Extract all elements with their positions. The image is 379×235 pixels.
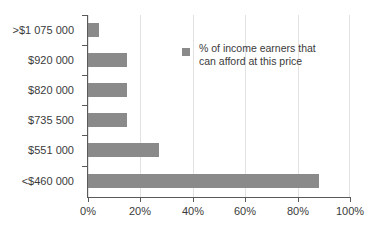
y-axis-label: $551 000 (0, 144, 80, 156)
bar-820000[interactable] (88, 83, 127, 97)
y-axis-label: $735 500 (0, 114, 80, 126)
x-axis-label: 60% (222, 205, 268, 218)
x-axis-label: 0% (65, 205, 111, 218)
bar-460000[interactable] (88, 174, 319, 188)
x-tick (350, 197, 351, 202)
gridline-100 (349, 15, 350, 197)
y-axis-label: $820 000 (0, 84, 80, 96)
gridline-0 (88, 15, 89, 197)
legend-label: % of income earners that can afford at t… (199, 42, 316, 68)
x-tick (298, 197, 299, 202)
x-tick (140, 197, 141, 202)
x-axis-label: 40% (170, 205, 216, 218)
x-axis-label: 80% (275, 205, 321, 218)
y-axis-line (87, 15, 88, 198)
legend: % of income earners that can afford at t… (182, 42, 316, 68)
x-tick (245, 197, 246, 202)
bar-735500[interactable] (88, 113, 127, 127)
x-axis-line (87, 197, 351, 198)
bar-920000[interactable] (88, 53, 127, 67)
legend-label-line1: % of income earners that (199, 42, 316, 55)
x-tick (88, 197, 89, 202)
y-axis-label: $920 000 (0, 54, 80, 66)
bar-1075000[interactable] (88, 23, 99, 37)
x-axis-label: 100% (327, 205, 373, 218)
bar-551000[interactable] (88, 143, 159, 157)
gridline-20 (140, 15, 141, 197)
bar-chart: >$1 075 000 $920 000 $820 000 $735 500 $… (0, 0, 379, 235)
legend-label-line2: can afford at this price (199, 55, 316, 68)
y-axis-labels: >$1 075 000 $920 000 $820 000 $735 500 $… (0, 15, 83, 197)
y-axis-label: <$460 000 (0, 175, 80, 187)
x-tick (193, 197, 194, 202)
legend-swatch-icon (182, 48, 190, 56)
x-axis-label: 20% (117, 205, 163, 218)
y-axis-label: >$1 075 000 (0, 24, 80, 36)
